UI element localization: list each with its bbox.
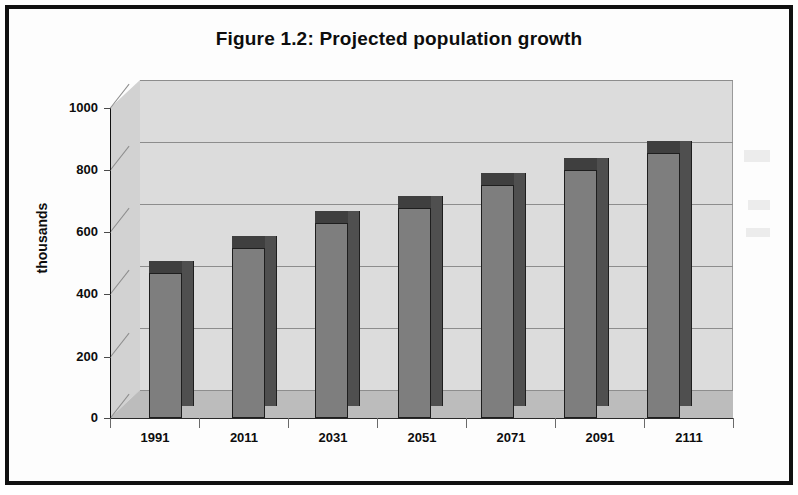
bar-side-face (265, 236, 277, 406)
y-axis-title: thousands (34, 178, 50, 298)
ytick-label-1000: 1000 (36, 102, 98, 114)
ytick-label-600: 600 (42, 226, 98, 238)
scan-artifact (744, 150, 770, 162)
bar-2051 (398, 80, 443, 418)
bar-front-face (232, 248, 265, 418)
ytick-mark-800 (104, 170, 111, 171)
ytick-mark-400 (104, 294, 111, 295)
bar-2071 (481, 80, 526, 418)
bar-2091 (564, 80, 609, 418)
bar-side-face (680, 141, 692, 406)
scan-artifact (746, 228, 770, 237)
ytick-label-0: 0 (42, 412, 98, 424)
ytick-label-800: 800 (42, 164, 98, 176)
bar-front-face (564, 170, 597, 418)
ytick-mark-200 (104, 357, 111, 358)
xtick-label-2071: 2071 (466, 430, 556, 445)
xtick-mark-5 (555, 418, 556, 428)
xtick-label-2011: 2011 (199, 430, 289, 445)
plot-left-wall (110, 80, 140, 418)
ytick-label-200: 200 (42, 351, 98, 363)
bar-side-face (348, 211, 360, 406)
xtick-label-2111: 2111 (644, 430, 734, 445)
bar-side-face (597, 158, 609, 406)
ytick-mark-1000 (104, 108, 111, 109)
xtick-label-2051: 2051 (377, 430, 467, 445)
ytick-label-400: 400 (42, 288, 98, 300)
bar-2011 (232, 80, 277, 418)
chart-plot-area: 0 200 400 600 800 1000 thousands (0, 0, 798, 495)
xtick-mark-4 (466, 418, 467, 428)
bar-front-face (315, 223, 348, 418)
x-axis-line (110, 418, 733, 419)
bar-1991 (149, 80, 194, 418)
bar-2031 (315, 80, 360, 418)
xtick-label-1991: 1991 (110, 430, 200, 445)
bar-front-face (398, 208, 431, 418)
xtick-mark-7 (733, 418, 734, 428)
xtick-mark-2 (288, 418, 289, 428)
xtick-label-2031: 2031 (288, 430, 378, 445)
xtick-mark-1 (199, 418, 200, 428)
xtick-mark-3 (377, 418, 378, 428)
bar-front-face (481, 185, 514, 418)
bar-side-face (514, 173, 526, 406)
xtick-mark-0 (110, 418, 111, 428)
xtick-mark-6 (644, 418, 645, 428)
bar-side-face (182, 261, 194, 406)
bar-side-face (431, 196, 443, 406)
scan-artifact (748, 200, 770, 210)
xtick-label-2091: 2091 (555, 430, 645, 445)
ytick-mark-600 (104, 232, 111, 233)
y-axis-line (110, 108, 111, 419)
chart-page: Figure 1.2: Projected population growth … (0, 0, 798, 495)
bar-front-face (149, 273, 182, 418)
bar-front-face (647, 153, 680, 418)
bar-2111 (647, 80, 692, 418)
